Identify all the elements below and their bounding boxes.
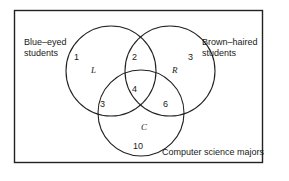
- set-symbol-C: C: [141, 122, 147, 132]
- label-blue-eyed-line1: Blue–eyed: [24, 37, 67, 48]
- venn-diagram: Blue–eyed students Brown–haired students…: [0, 0, 289, 181]
- label-brown-haired-line2: students: [202, 48, 258, 59]
- label-blue-eyed: Blue–eyed students: [24, 37, 67, 59]
- region-R-only: 3: [188, 52, 193, 62]
- region-L-only: 1: [74, 52, 79, 62]
- set-symbol-R: R: [172, 65, 178, 75]
- label-brown-haired-line1: Brown–haired: [202, 37, 258, 48]
- region-L-R: 2: [132, 52, 137, 62]
- region-R-C: 6: [163, 99, 168, 109]
- circle-blue-eyed: [66, 26, 156, 116]
- label-blue-eyed-line2: students: [24, 48, 67, 59]
- diagram-frame: [15, 11, 263, 163]
- set-symbol-L: L: [91, 65, 96, 75]
- label-computer-science: Computer science majors: [162, 147, 264, 158]
- region-L-C: 3: [100, 99, 105, 109]
- region-L-R-C: 4: [132, 84, 137, 94]
- region-C-only: 10: [133, 141, 143, 151]
- label-brown-haired: Brown–haired students: [202, 37, 258, 59]
